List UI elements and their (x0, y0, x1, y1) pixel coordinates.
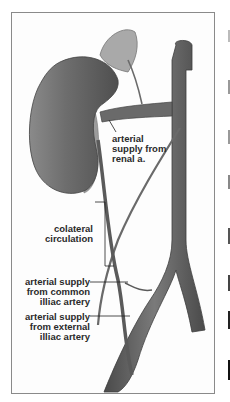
label-line: circulation (45, 234, 93, 244)
label-collateral-circulation: colateral circulation (45, 224, 93, 244)
ureter-collateral (98, 140, 132, 375)
label-line: illiac artery (25, 332, 90, 342)
label-line: illiac artery (25, 297, 90, 307)
renal-artery (100, 102, 172, 122)
label-external-iliac-supply: arterial supply from external illiac art… (25, 312, 90, 342)
kidney (29, 57, 118, 194)
label-renal-supply: arterial supply from renal a. (112, 134, 166, 164)
label-line: renal a. (112, 154, 166, 164)
edge-mark (228, 30, 230, 42)
edge-mark (228, 228, 230, 244)
common-iliac-branch (125, 283, 152, 290)
adrenal-vessel (128, 60, 142, 104)
label-common-iliac-supply: arterial supply from common illiac arter… (25, 277, 90, 307)
edge-mark (228, 130, 230, 144)
edge-mark (228, 311, 230, 329)
edge-mark (228, 80, 230, 94)
edge-mark (228, 175, 230, 189)
aorta (104, 40, 205, 392)
edge-mark (228, 275, 230, 291)
edge-mark (228, 360, 230, 380)
